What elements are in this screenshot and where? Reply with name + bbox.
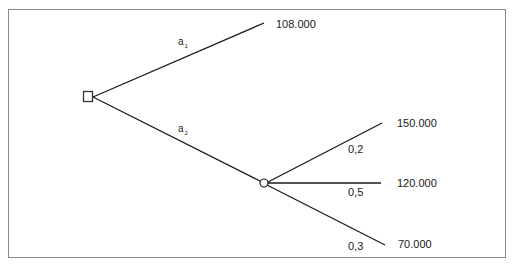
decision-node-square-icon xyxy=(84,92,93,102)
action-label-a2: a2 xyxy=(178,123,188,139)
action-a2-name: a xyxy=(178,123,184,134)
probability-label-3: 0,3 xyxy=(348,240,363,252)
branch-prob-0-2 xyxy=(268,123,382,182)
chance-node-circle-icon xyxy=(260,179,268,187)
action-label-a1: a1 xyxy=(178,36,188,52)
outcome-branch-1: 150.000 xyxy=(397,117,437,129)
branch-a1 xyxy=(93,23,264,97)
branch-prob-0-3 xyxy=(267,185,385,245)
probability-label-2: 0,5 xyxy=(348,186,363,198)
decision-tree-canvas xyxy=(0,0,514,266)
probability-label-1: 0,2 xyxy=(348,143,363,155)
branch-a2 xyxy=(93,97,260,181)
action-a1-subscript: 1 xyxy=(185,43,188,49)
action-a2-subscript: 2 xyxy=(185,130,188,136)
outcome-a1: 108.000 xyxy=(276,18,316,30)
outcome-branch-2: 120.000 xyxy=(397,177,437,189)
action-a1-name: a xyxy=(178,36,184,47)
outcome-branch-3: 70.000 xyxy=(398,238,432,250)
